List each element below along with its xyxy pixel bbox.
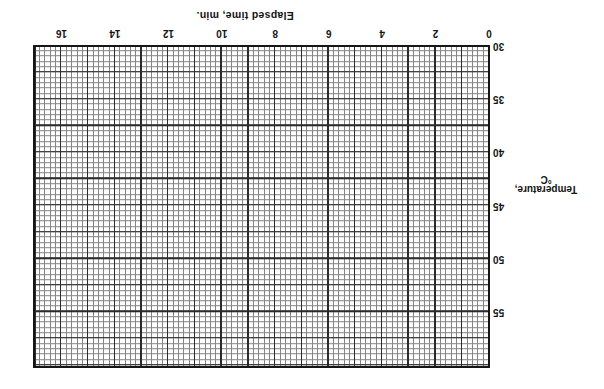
y-tick-label-50: 50	[493, 253, 504, 264]
y-axis-tick-labels: 303540455055	[0, 0, 604, 389]
y-tick-label-40: 40	[493, 147, 504, 158]
rotated-graph-sheet: Elapsed time, min. Temperature, °C 02468…	[0, 0, 604, 389]
scanned-figure: Elapsed time, min. Temperature, °C 02468…	[0, 0, 604, 389]
y-tick-label-30: 30	[493, 41, 504, 52]
y-tick-label-55: 55	[493, 307, 504, 318]
y-tick-label-35: 35	[493, 94, 504, 105]
y-tick-label-45: 45	[493, 200, 504, 211]
